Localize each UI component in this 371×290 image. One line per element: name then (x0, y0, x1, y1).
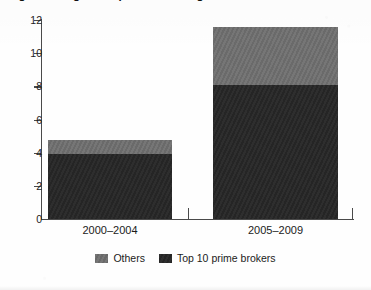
y-tick-label-8: 8 (16, 81, 42, 91)
legend-item-others[interactable]: Others (95, 253, 145, 264)
legend-swatch-top-10-prime-brokers-icon (159, 254, 172, 263)
bar-segment-others-2005-2009 (213, 27, 338, 85)
x-tick-mark-category-separator (188, 208, 189, 220)
legend-swatch-others-icon (95, 254, 108, 263)
x-axis-line (41, 219, 354, 220)
y-tick-label-2: 2 (16, 181, 42, 191)
bar-2000-2004[interactable] (48, 140, 172, 219)
y-tick-label-4: 4 (16, 148, 42, 158)
x-axis-label-2000-2004: 2000–2004 (48, 224, 172, 237)
bar-segment-others-2000-2004 (48, 140, 172, 154)
bar-segment-top10-2005-2009 (213, 85, 338, 219)
y-tick-label-0: 0 (16, 214, 42, 224)
x-axis-label-2005-2009: 2005–2009 (213, 224, 338, 237)
legend-label-others: Others (113, 253, 145, 264)
y-tick-label-12: 12 (16, 15, 42, 25)
bar-2005-2009[interactable] (213, 27, 338, 219)
y-tick-label-10: 10 (16, 48, 42, 58)
y-tick-label-6: 6 (16, 115, 42, 125)
legend-label-top-10-prime-brokers: Top 10 prime brokers (177, 253, 276, 264)
bar-segment-top10-2000-2004 (48, 154, 172, 219)
figure-container: Figure: Hedge fund prime brokerage 12 10… (0, 0, 371, 290)
chart-legend: Others Top 10 prime brokers (0, 253, 371, 264)
legend-item-top-10-prime-brokers[interactable]: Top 10 prime brokers (159, 253, 276, 264)
x-tick-mark-axis-end (352, 208, 353, 220)
chart-plot-area: 12 10 8 6 4 2 0 (0, 0, 371, 290)
